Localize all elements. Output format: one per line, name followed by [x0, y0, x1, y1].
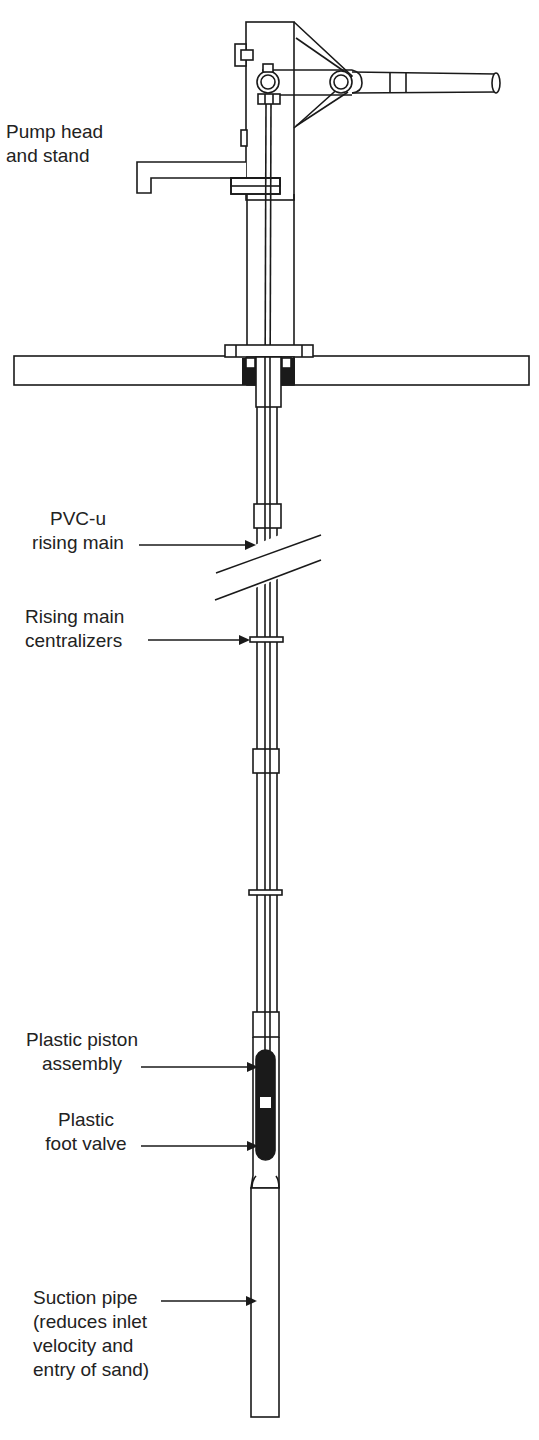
suction-pipe — [251, 1188, 279, 1417]
label-suction-pipe: Suction pipe (reduces inlet velocity and… — [33, 1286, 149, 1382]
pump-head — [137, 22, 500, 200]
label-rising-main: PVC-u rising main — [22, 507, 134, 555]
rising-main — [213, 407, 330, 1060]
arrowhead-icon — [239, 635, 250, 645]
pump-cylinder — [251, 1037, 279, 1188]
label-centralizers: Rising main centralizers — [25, 605, 124, 653]
base-slab — [14, 345, 529, 407]
hand-pump-diagram — [0, 0, 539, 1440]
label-foot-valve: Plastic foot valve — [36, 1108, 136, 1156]
label-piston-assembly: Plastic piston assembly — [18, 1028, 146, 1076]
label-pump-head: Pump head and stand — [6, 120, 103, 168]
leader-arrows — [139, 540, 258, 1306]
